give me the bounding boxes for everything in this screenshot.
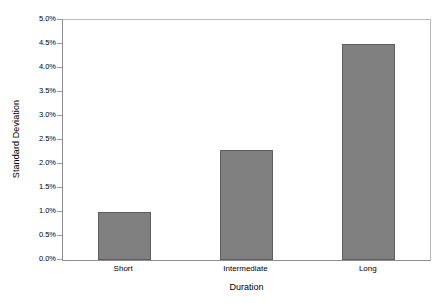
bars-layer [63, 20, 430, 260]
y-axis-tick-label: 1.5% [18, 183, 56, 191]
bar-long[interactable] [342, 44, 395, 260]
y-axis-tick-label: 3.5% [18, 87, 56, 95]
y-axis-tick-label: 0.0% [18, 255, 56, 263]
y-axis-tick-label: 5.0% [18, 15, 56, 23]
y-axis-tick-labels: 0.0%0.5%1.0%1.5%2.0%2.5%3.0%3.5%4.0%4.5%… [18, 0, 56, 303]
bar-chart-figure: Standard Deviation 0.0%0.5%1.0%1.5%2.0%2… [0, 0, 446, 303]
y-axis-tick-label: 0.5% [18, 231, 56, 239]
bar-intermediate[interactable] [220, 150, 273, 260]
x-axis-tick-labels: ShortIntermediateLong [62, 263, 431, 277]
y-axis-tick-label: 3.0% [18, 111, 56, 119]
x-axis-tick-label: Long [307, 263, 429, 275]
x-axis-title: Duration [62, 281, 431, 293]
y-axis-tick-label: 1.0% [18, 207, 56, 215]
x-axis-tick-label: Intermediate [184, 263, 306, 275]
y-axis-tick-label: 2.5% [18, 135, 56, 143]
y-axis-tick-label: 4.0% [18, 63, 56, 71]
plot-area [62, 19, 431, 261]
x-axis-tick-label: Short [62, 263, 184, 275]
bar-short[interactable] [98, 212, 151, 260]
y-axis-tick-label: 2.0% [18, 159, 56, 167]
y-axis-tick-label: 4.5% [18, 39, 56, 47]
